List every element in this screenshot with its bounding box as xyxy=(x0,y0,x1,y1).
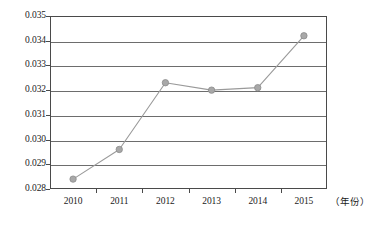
y-axis-tick-mark xyxy=(46,189,50,190)
gridline xyxy=(51,141,326,142)
y-axis-tick-label: 0.035 xyxy=(2,11,46,21)
x-axis-tick-mark xyxy=(189,189,190,193)
y-axis-tick-label: 0.033 xyxy=(2,60,46,70)
x-axis-tick-mark xyxy=(235,189,236,193)
y-axis-tick-label: 0.030 xyxy=(2,135,46,145)
plot-area xyxy=(50,16,327,189)
y-axis-tick-mark xyxy=(46,16,50,17)
y-axis-tick-label: 0.028 xyxy=(2,184,46,194)
x-axis-unit-label: （年份） xyxy=(330,196,370,207)
gridline xyxy=(51,91,326,92)
gridline xyxy=(51,42,326,43)
x-axis-tick-mark xyxy=(96,189,97,193)
y-axis-tick-label: 0.031 xyxy=(2,110,46,120)
y-axis-tick-mark xyxy=(46,41,50,42)
y-axis-tick-mark xyxy=(46,90,50,91)
y-axis-tick-mark xyxy=(46,115,50,116)
y-axis-tick-mark xyxy=(46,65,50,66)
gridline xyxy=(51,66,326,67)
gridline xyxy=(51,116,326,117)
gridline xyxy=(51,165,326,166)
x-axis-tick-mark xyxy=(142,189,143,193)
x-axis-tick-label: 2015 xyxy=(274,196,334,207)
y-axis-tick-label: 0.029 xyxy=(2,159,46,169)
line-chart: 0.0350.0340.0330.0320.0310.0300.0290.028… xyxy=(0,0,378,225)
y-axis-tick-label: 0.032 xyxy=(2,85,46,95)
x-axis-tick-mark xyxy=(281,189,282,193)
y-axis-tick-mark xyxy=(46,140,50,141)
y-axis-tick-label: 0.034 xyxy=(2,36,46,46)
y-axis-tick-mark xyxy=(46,164,50,165)
